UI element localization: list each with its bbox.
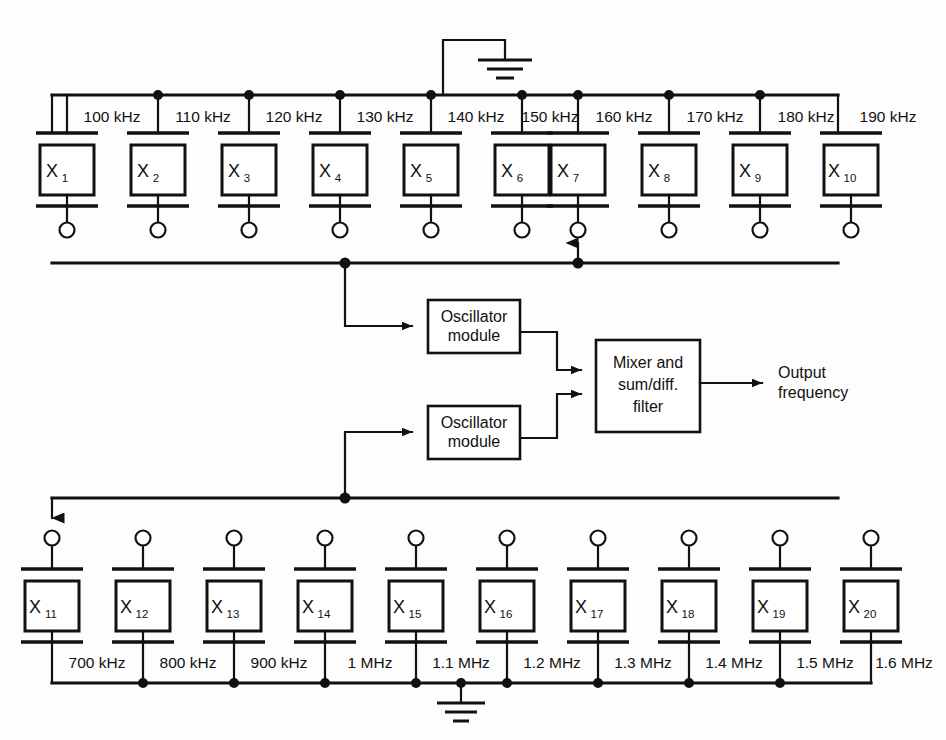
xtal-sub-1: 1: [62, 172, 68, 184]
terminal-x16[interactable]: [500, 531, 515, 546]
xtal-label-5: X: [410, 161, 422, 181]
terminal-x12[interactable]: [136, 531, 151, 546]
mixer-line1: Mixer and: [613, 354, 683, 371]
xtal-label-1: X: [46, 161, 58, 181]
terminal-x11[interactable]: [45, 531, 60, 546]
output-label-line2: frequency: [778, 384, 848, 401]
terminal-x5[interactable]: [424, 223, 439, 238]
freq-label-10: 190 kHz: [860, 108, 917, 125]
top-crystal-bank: X 1 X 2: [36, 40, 916, 238]
xtal-label-8: X: [648, 161, 660, 181]
xtal-sub-2: 2: [153, 172, 159, 184]
bfreq-label-17: 1.3 MHz: [614, 654, 672, 671]
output-label-line1: Output: [778, 364, 827, 381]
oscillator-module-top[interactable]: Oscillator module: [428, 300, 520, 353]
freq-label-2: 110 kHz: [175, 108, 231, 125]
terminal-x2[interactable]: [151, 223, 166, 238]
top-frequency-labels: 100 kHz 110 kHz 120 kHz 130 kHz 140 kHz …: [84, 108, 917, 125]
xtal-label-12: X: [120, 597, 132, 617]
lower-bus-tap-node: [340, 493, 351, 504]
freq-label-8: 170 kHz: [687, 108, 744, 125]
xtal-label-9: X: [739, 161, 751, 181]
osc-bottom-input-wire: [345, 432, 412, 498]
xtal-sub-8: 8: [664, 172, 670, 184]
osc-top-output-wire: [520, 332, 581, 370]
xtal-label-16: X: [484, 597, 496, 617]
terminal-x19[interactable]: [773, 531, 788, 546]
terminal-x7[interactable]: [571, 223, 586, 238]
bfreq-label-15: 1.1 MHz: [432, 654, 490, 671]
xtal-label-2: X: [137, 161, 149, 181]
xtal-label-14: X: [302, 597, 314, 617]
xtal-sub-20: 20: [864, 608, 877, 620]
xtal-label-10: X: [828, 161, 840, 181]
terminal-x13[interactable]: [227, 531, 242, 546]
xtal-label-19: X: [757, 597, 769, 617]
ground-symbol-top: [443, 40, 532, 95]
osc-top-line2: module: [448, 327, 501, 344]
mixer-line2: sum/diff.: [618, 376, 678, 393]
mixer-line3: filter: [633, 398, 664, 415]
xtal-label-7: X: [557, 161, 569, 181]
bfreq-label-13: 900 kHz: [251, 654, 308, 671]
bfreq-label-19: 1.5 MHz: [796, 654, 854, 671]
terminal-x20[interactable]: [864, 531, 879, 546]
xtal-sub-4: 4: [335, 172, 342, 184]
xtal-sub-13: 13: [227, 608, 240, 620]
center-signal-chain: Oscillator module Oscillator module Mixe…: [345, 263, 848, 498]
xtal-sub-14: 14: [318, 608, 331, 620]
bottom-crystal-bank: X 11 X 12: [21, 531, 933, 722]
xtal-sub-16: 16: [500, 608, 513, 620]
schematic-diagram: X 1 X 2: [0, 0, 946, 740]
freq-label-6: 150 kHz: [522, 108, 579, 125]
xtal-sub-18: 18: [682, 608, 695, 620]
terminal-x9[interactable]: [753, 223, 768, 238]
xtal-label-15: X: [393, 597, 405, 617]
osc-top-line1: Oscillator: [441, 308, 508, 325]
xtal-label-20: X: [848, 597, 860, 617]
terminal-x17[interactable]: [591, 531, 606, 546]
terminal-x6[interactable]: [515, 223, 530, 238]
freq-label-1: 100 kHz: [84, 108, 141, 125]
xtal-label-3: X: [228, 161, 240, 181]
xtal-sub-15: 15: [409, 608, 422, 620]
xtal-sub-11: 11: [45, 608, 57, 620]
osc-top-input-wire: [345, 263, 412, 326]
bfreq-label-18: 1.4 MHz: [705, 654, 763, 671]
lower-selector-bus: [52, 493, 838, 519]
terminal-x1[interactable]: [60, 223, 75, 238]
freq-label-5: 140 kHz: [448, 108, 505, 125]
xtal-sub-7: 7: [573, 172, 579, 184]
freq-label-4: 130 kHz: [357, 108, 414, 125]
oscillator-module-bottom[interactable]: Oscillator module: [428, 406, 520, 459]
terminal-x8[interactable]: [662, 223, 677, 238]
osc-bottom-line1: Oscillator: [441, 414, 508, 431]
top-column-10: X 10: [820, 133, 882, 238]
bfreq-label-14: 1 MHz: [348, 654, 393, 671]
terminal-x3[interactable]: [242, 223, 257, 238]
bfreq-label-11: 700 kHz: [69, 654, 126, 671]
upper-selector-bus: [52, 243, 838, 269]
xtal-sub-3: 3: [244, 172, 250, 184]
xtal-label-17: X: [575, 597, 587, 617]
xtal-label-13: X: [211, 597, 223, 617]
freq-label-3: 120 kHz: [266, 108, 323, 125]
bfreq-label-20: 1.6 MHz: [875, 654, 933, 671]
schematic-canvas: X 1 X 2: [0, 0, 946, 740]
terminal-x18[interactable]: [682, 531, 697, 546]
terminal-x4[interactable]: [333, 223, 348, 238]
xtal-label-6: X: [501, 161, 513, 181]
terminal-x15[interactable]: [409, 531, 424, 546]
osc-bottom-line2: module: [448, 433, 501, 450]
xtal-sub-5: 5: [426, 172, 432, 184]
bfreq-label-16: 1.2 MHz: [523, 654, 581, 671]
terminal-x10[interactable]: [844, 223, 859, 238]
mixer-filter-block[interactable]: Mixer and sum/diff. filter: [596, 340, 700, 432]
xtal-label-18: X: [666, 597, 678, 617]
xtal-sub-9: 9: [755, 172, 761, 184]
xtal-sub-10: 10: [844, 172, 857, 184]
xtal-label-4: X: [319, 161, 331, 181]
bottom-frequency-labels: 700 kHz 800 kHz 900 kHz 1 MHz 1.1 MHz 1.…: [69, 654, 933, 671]
terminal-x14[interactable]: [318, 531, 333, 546]
xtal-sub-6: 6: [517, 172, 523, 184]
